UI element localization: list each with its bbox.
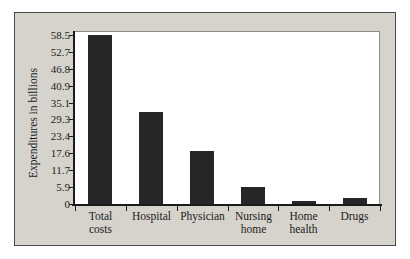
y-axis-tick-label: 40.9 <box>51 80 70 92</box>
x-axis-tick-label: Homehealth <box>278 210 329 236</box>
y-axis-tick-mark <box>69 170 75 171</box>
y-axis-tick-mark <box>69 153 75 154</box>
y-axis-tick-mark <box>69 35 75 36</box>
x-axis-tick-label-line: Physician <box>177 210 228 223</box>
y-axis-tick-mark <box>69 69 75 70</box>
bars-layer <box>75 31 380 204</box>
y-axis-tick-mark <box>69 103 75 104</box>
y-axis-tick-label: 52.7 <box>51 46 70 58</box>
x-axis-tick-label: Drugs <box>329 210 380 223</box>
y-axis-tick-label: 58.5 <box>51 29 70 41</box>
x-axis-tick-label-line: health <box>278 223 329 236</box>
y-axis-tick-label: 5.9 <box>56 181 70 193</box>
x-axis-tick-label-line: Drugs <box>329 210 380 223</box>
bar-chart-figure: 58.552.746.840.935.129.323.417.611.75.90… <box>0 0 410 259</box>
x-axis-tick-label: Physician <box>177 210 228 223</box>
x-axis-tick-label: Nursinghome <box>228 210 279 236</box>
x-axis-tick-mark <box>228 205 229 211</box>
x-axis-tick-label-line: Total <box>75 210 126 223</box>
x-axis-tick-mark <box>75 205 76 211</box>
y-axis-tick-mark <box>69 52 75 53</box>
x-axis-tick-label-line: Nursing <box>228 210 279 223</box>
y-axis-tick-label: 17.6 <box>51 147 70 159</box>
bar <box>190 151 214 204</box>
x-axis-tick-label: Hospital <box>126 210 177 223</box>
y-axis-tick-label: 11.7 <box>51 164 70 176</box>
bar <box>139 112 163 204</box>
bar <box>343 198 367 204</box>
bar <box>241 187 265 204</box>
x-axis-tick-mark <box>177 205 178 211</box>
x-axis-tick-label: Totalcosts <box>75 210 126 236</box>
x-axis-line <box>72 204 382 206</box>
y-axis-title: Expenditures in billions <box>27 43 39 203</box>
x-axis-tick-label-line: Home <box>278 210 329 223</box>
x-axis-tick-mark <box>329 205 330 211</box>
y-axis-tick-mark <box>69 187 75 188</box>
y-axis-tick-label: 46.8 <box>51 63 70 75</box>
y-axis-tick-mark <box>69 86 75 87</box>
y-axis-tick-mark <box>69 136 75 137</box>
x-axis-tick-label-line: Hospital <box>126 210 177 223</box>
x-axis-tick-labels: TotalcostsHospitalPhysicianNursinghomeHo… <box>75 210 380 250</box>
x-axis-tick-label-line: home <box>228 223 279 236</box>
y-axis-tick-mark <box>69 119 75 120</box>
x-axis-tick-mark <box>380 205 381 211</box>
y-axis-tick-label: 23.4 <box>51 130 70 142</box>
y-axis-tick-label: 29.3 <box>51 113 70 125</box>
x-axis-tick-label-line: costs <box>75 223 126 236</box>
y-axis-tick-label: 35.1 <box>51 97 70 109</box>
bar <box>88 35 112 204</box>
x-axis-tick-mark <box>126 205 127 211</box>
bar <box>292 201 316 204</box>
x-axis-tick-mark <box>278 205 279 211</box>
